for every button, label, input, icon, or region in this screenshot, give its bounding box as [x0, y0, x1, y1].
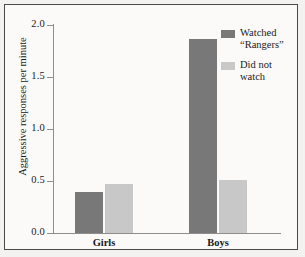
- y-axis-tick-label: 0.0: [5, 226, 45, 237]
- legend-label: Did not watch: [240, 59, 272, 82]
- bar: [75, 192, 103, 233]
- bar: [189, 39, 217, 233]
- legend-swatch-icon: [221, 62, 235, 70]
- bar: [105, 184, 133, 233]
- x-axis-line: [53, 233, 281, 234]
- x-axis-tick-label: Boys: [178, 237, 258, 248]
- legend-label: Watched “Rangers”: [240, 27, 284, 50]
- legend-item: Watched “Rangers”: [221, 27, 301, 50]
- y-axis-tick-mark: [47, 233, 53, 234]
- y-axis-title: Aggressive responses per minute: [17, 12, 28, 202]
- chart-legend: Watched “Rangers”Did not watch: [221, 27, 301, 91]
- x-axis-tick-label: Girls: [64, 237, 144, 248]
- legend-item: Did not watch: [221, 59, 301, 82]
- chart-frame: 0.00.51.01.52.0 Aggressive responses per…: [4, 4, 298, 250]
- legend-swatch-icon: [221, 30, 235, 38]
- chart-figure: 0.00.51.01.52.0 Aggressive responses per…: [0, 0, 305, 257]
- bar: [219, 180, 247, 233]
